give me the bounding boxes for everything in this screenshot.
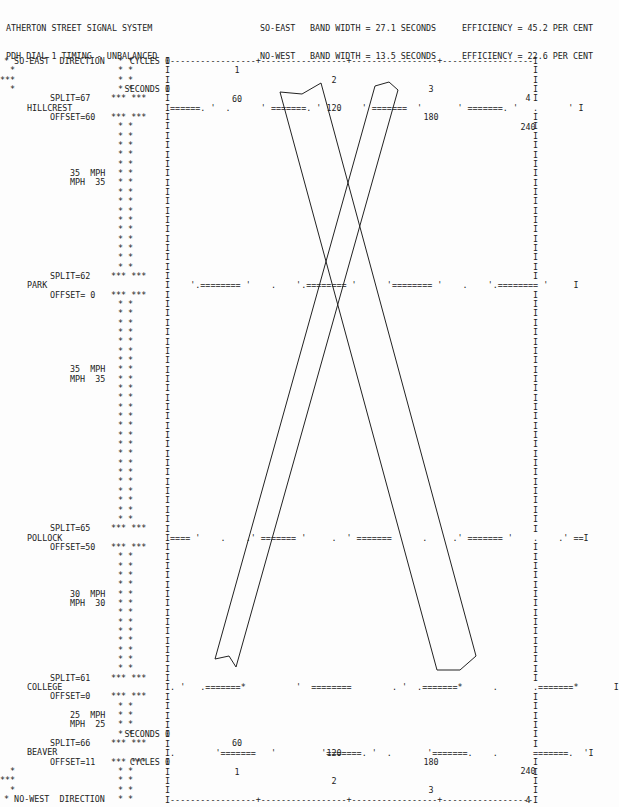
street-row: * *	[0, 150, 165, 159]
split-row: SPLIT=66*** ***	[0, 739, 165, 748]
arrow-glyph: *	[10, 85, 15, 94]
speed-row: MPH 30* *	[0, 599, 165, 608]
street-row: * *	[0, 571, 165, 580]
offset-label: OFFSET=60	[50, 113, 95, 122]
street-row: * *	[0, 197, 165, 206]
street-row: * *	[0, 477, 165, 486]
offset-row: OFFSET=11*** ***	[0, 758, 165, 767]
street-row: * *	[0, 449, 165, 458]
speed-row: MPH 25* *	[0, 720, 165, 729]
speed-nw: MPH 35	[70, 375, 105, 384]
intersection-marker: *** ***	[111, 524, 146, 533]
street-row: * *	[0, 608, 165, 617]
split-row: SPLIT=61*** ***	[0, 674, 165, 683]
time-space-graph: I-----------------+-----------------+---…	[165, 57, 538, 703]
offset-label: OFFSET=11	[50, 758, 95, 767]
street-row: * *	[0, 300, 165, 309]
street-row: * *	[0, 562, 165, 571]
street-row: * *	[0, 309, 165, 318]
street-row: * *	[0, 253, 165, 262]
speed-row: MPH 35* *	[0, 375, 165, 384]
street-row: * *	[0, 487, 165, 496]
split-row: SPLIT=62*** ***	[0, 272, 165, 281]
street-row: * *	[0, 431, 165, 440]
street-row: * *	[0, 347, 165, 356]
street-row: * *	[0, 337, 165, 346]
street-row: * *	[0, 188, 165, 197]
street-row: * *	[0, 552, 165, 561]
direction-row-top: * SO-EAST DIRECTION* *	[0, 57, 165, 66]
street-row: * *	[0, 319, 165, 328]
street-row: **** *	[0, 776, 165, 785]
street-row: * *	[0, 122, 165, 131]
intersection-marker: *** ***	[111, 739, 146, 748]
street-row: * *	[0, 235, 165, 244]
street-row: * *	[0, 412, 165, 421]
intersection-marker: *** ***	[111, 674, 146, 683]
street-row: * *	[0, 440, 165, 449]
street-row: * *	[0, 132, 165, 141]
street-row: **** *	[0, 76, 165, 85]
street-row: ** *	[0, 767, 165, 776]
split-row: SPLIT=67*** ***	[0, 94, 165, 103]
split-row: SPLIT=65*** ***	[0, 524, 165, 533]
direction-label-bottom: * NO-WEST DIRECTION	[4, 795, 105, 804]
offset-row: OFFSET=0*** ***	[0, 692, 165, 701]
street-marker: * *	[118, 795, 133, 804]
split-label: SPLIT=62	[50, 272, 90, 281]
speed-row: MPH 35* *	[0, 178, 165, 187]
street-row: * *	[0, 627, 165, 636]
street-row: * *	[0, 216, 165, 225]
street-row: * *	[0, 384, 165, 393]
street-row: * *	[0, 496, 165, 505]
speed-nw: MPH 25	[70, 720, 105, 729]
street-row: * *	[0, 207, 165, 216]
intersection-marker: *** ***	[111, 272, 146, 281]
street-row: ** *	[0, 66, 165, 75]
street-row: * *	[0, 459, 165, 468]
offset-label: OFFSET=50	[50, 543, 95, 552]
street-row: * *	[0, 646, 165, 655]
speed-nw: MPH 35	[70, 178, 105, 187]
intersection-marker: *** ***	[111, 94, 146, 103]
direction-row-bottom: * NO-WEST DIRECTION* *	[0, 795, 165, 804]
offset-row: OFFSET= 0*** ***	[0, 291, 165, 300]
street-row: * *	[0, 421, 165, 430]
speed-nw: MPH 30	[70, 599, 105, 608]
street-row: * *	[0, 655, 165, 664]
street-row: * *	[0, 225, 165, 234]
street-row: * *	[0, 618, 165, 627]
street-row: * *	[0, 141, 165, 150]
street-row: * *	[0, 506, 165, 515]
street-row: * *	[0, 244, 165, 253]
street-row: * *	[0, 393, 165, 402]
street-row: * *	[0, 328, 165, 337]
direction-label-top: * SO-EAST DIRECTION	[4, 57, 105, 66]
street-column: * SO-EAST DIRECTION* *** ***** *** *SPLI…	[0, 57, 165, 805]
offset-row: OFFSET=50*** ***	[0, 543, 165, 552]
time-axis-bottom: I-----------------+-----------------+---…	[165, 796, 538, 805]
offset-row: OFFSET=60*** ***	[0, 113, 165, 122]
intersection-name: PARK	[27, 281, 47, 290]
street-row: * *	[0, 403, 165, 412]
street-row: * *	[0, 636, 165, 645]
offset-label: OFFSET=0	[50, 692, 90, 701]
street-row: * *	[0, 468, 165, 477]
offset-label: OFFSET= 0	[50, 291, 95, 300]
